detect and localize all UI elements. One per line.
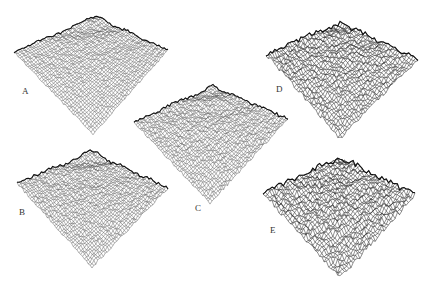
panel-label-d: D (276, 85, 283, 94)
surface-plot-b (17, 150, 168, 268)
surface-plot-d (266, 21, 418, 138)
panel-label-e: E (270, 226, 276, 235)
panel-label-b: B (19, 208, 25, 217)
surface-plot-e (263, 157, 415, 278)
panel-label-a: A (22, 87, 29, 96)
figure-canvas (0, 0, 431, 285)
surface-patch (17, 152, 168, 267)
panel-label-c: C (195, 204, 201, 213)
